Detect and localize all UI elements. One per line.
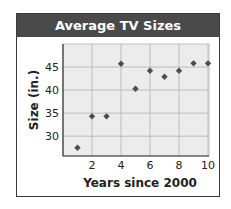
scatter-plot: 246810 30354045 Years since 2000 Size (i… — [0, 0, 231, 209]
x-tick-label: 6 — [147, 159, 154, 172]
y-tick-labels: 30354045 — [45, 61, 59, 143]
y-tick-label: 45 — [45, 61, 59, 74]
x-tick-label: 2 — [89, 159, 96, 172]
y-axis-label: Size (in.) — [27, 70, 41, 130]
y-tick-label: 30 — [45, 130, 59, 143]
x-tick-label: 8 — [176, 159, 183, 172]
x-tick-label: 10 — [201, 159, 215, 172]
y-tick-label: 35 — [45, 107, 59, 120]
x-axis-label: Years since 2000 — [82, 176, 197, 190]
x-tick-label: 4 — [118, 159, 125, 172]
y-tick-label: 40 — [45, 84, 59, 97]
x-tick-labels: 246810 — [89, 159, 216, 172]
plot-area — [63, 44, 209, 156]
